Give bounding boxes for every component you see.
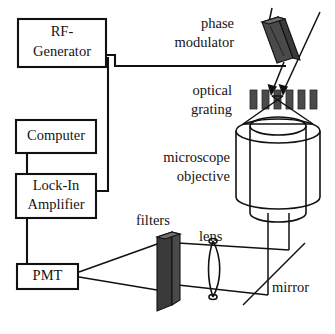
pmt-box[interactable]: PMT [17, 264, 78, 289]
grating-bar-5 [298, 90, 305, 109]
wiring-group [27, 55, 286, 264]
lens-label: lens [199, 228, 223, 244]
filters-label: filters [136, 212, 170, 228]
microscope-objective-device[interactable] [236, 117, 320, 222]
computer-box[interactable]: Computer [16, 120, 96, 153]
beam-filters-to-pmt-lower [79, 277, 157, 290]
optical-grating-label-line2: grating [191, 101, 232, 117]
lens-device[interactable] [209, 239, 220, 300]
wire-rf-to-lockin [96, 57, 108, 191]
beam-filters-to-pmt-upper [79, 243, 160, 272]
mirror-surface-line [243, 243, 305, 305]
wire-rf-to-phase-modulator [106, 55, 286, 66]
computer-label: Computer [27, 127, 85, 143]
objective-inner-bottom-arc [250, 213, 306, 222]
filters-device[interactable] [157, 232, 180, 311]
phase-modulator-label-line1: phase [201, 15, 234, 31]
microscope-objective-label-line1: microscope [163, 149, 230, 165]
detection-beam-group [79, 243, 289, 295]
optical-grating-label-line1: optical [193, 82, 232, 98]
grating-bar-6 [310, 90, 317, 109]
objective-outer-top-ellipse [236, 119, 320, 143]
diagram-canvas: RF- Generator Computer Lock-In Amplifier… [0, 0, 335, 334]
filters-side-face [172, 232, 180, 305]
lock-in-amplifier-label-line1: Lock-In [33, 177, 80, 193]
beam-mirror-to-filters-lower [178, 285, 268, 295]
optical-setup-diagram: RF- Generator Computer Lock-In Amplifier… [0, 0, 335, 334]
rf-generator-label-line1: RF- [51, 23, 74, 39]
phase-modulator-label-line2: modulator [174, 34, 234, 50]
filters-front-face [157, 232, 172, 311]
mirror-device[interactable] [243, 243, 305, 305]
lock-in-amplifier-label-line2: Amplifier [27, 196, 84, 212]
beam-mirror-to-filters-upper [178, 243, 289, 250]
instrument-boxes-group: RF- Generator Computer Lock-In Amplifier… [16, 19, 106, 289]
pmt-label: PMT [33, 267, 63, 283]
grating-bar-1 [250, 90, 257, 109]
microscope-objective-label-line2: objective [177, 168, 230, 184]
objective-outer-bottom-arc [236, 197, 320, 209]
phase-modulator-device[interactable] [262, 17, 300, 63]
lock-in-amplifier-box[interactable]: Lock-In Amplifier [16, 174, 96, 218]
mirror-label: mirror [272, 279, 309, 295]
rf-generator-box[interactable]: RF- Generator [18, 19, 106, 67]
rf-generator-label-line2: Generator [33, 43, 91, 59]
